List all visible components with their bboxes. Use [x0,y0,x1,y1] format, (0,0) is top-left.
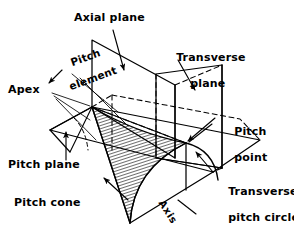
pitch-plane-left-edge [50,130,70,152]
label-transverse-plane-line1: Transverse [176,51,246,64]
label-pitch-point-line1: Pitch [234,125,266,138]
label-transverse-pitch-circle-line1: Transverse [228,185,294,198]
label-pitch-plane: Pitch plane [8,159,80,171]
diagram-canvas: Axial plane Transverse plane Pitch eleme… [0,0,294,240]
pitch-point-leader-a [188,118,215,141]
label-pitch-point-line2: point [234,151,267,164]
transverse-plane-inner-edge [156,158,222,168]
label-axial-plane: Axial plane [74,12,145,24]
label-pitch-element-line1: Pitch [69,46,102,68]
label-pitch-cone: Pitch cone [14,197,81,209]
label-apex: Apex [8,84,40,96]
label-pitch-element-line2: element [67,64,118,92]
label-transverse-pitch-circle-line2: pitch circle [228,211,294,224]
pitch-plane-small-curve [74,118,88,150]
label-transverse-plane-line2: plane [176,77,225,90]
label-pitch-point: Pitch point [218,112,267,177]
transverse-pitch-circle-leader [196,152,213,172]
axis-leader [178,200,196,214]
label-transverse-pitch-circle: Transverse pitch circle [212,172,294,237]
label-transverse-plane: Transverse plane [160,38,246,103]
